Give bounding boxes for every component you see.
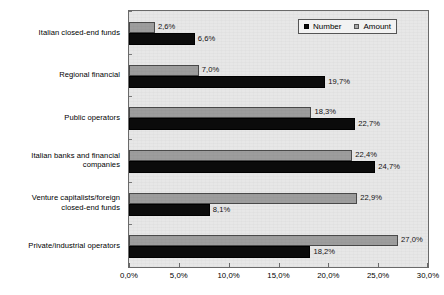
bar-amount-0 — [129, 22, 155, 33]
category-tick-2 — [129, 96, 132, 97]
category-label-line: companies — [0, 160, 120, 170]
category-tick-5 — [129, 224, 132, 225]
bar-value-amount-1: 7,0% — [202, 66, 220, 74]
value-tick-4 — [328, 263, 329, 267]
bar-number-1 — [129, 76, 325, 88]
bar-value-number-1: 19,7% — [328, 78, 350, 86]
category-label-3: Italian banks and financialcompanies — [0, 151, 120, 170]
bar-number-4 — [129, 204, 210, 216]
bar-number-3 — [129, 161, 375, 173]
category-tick-4 — [129, 182, 132, 183]
bar-amount-2 — [129, 107, 311, 118]
value-tick-1 — [179, 263, 180, 267]
category-label-0: Italian closed-end funds — [0, 28, 120, 38]
bar-value-amount-2: 18,3% — [314, 108, 336, 116]
value-tick-label-4: 20,0% — [317, 271, 339, 281]
category-label-1: Regional financial — [0, 70, 120, 80]
bar-value-number-2: 22,7% — [358, 120, 380, 128]
bar-value-number-0: 6,6% — [198, 35, 216, 43]
value-tick-label-3: 15,0% — [267, 271, 289, 281]
category-label-line: Regional financial — [0, 70, 120, 80]
value-tick-6 — [427, 263, 428, 267]
category-label-line: Public operators — [0, 113, 120, 123]
bar-amount-1 — [129, 65, 199, 76]
legend-entry-amount: Amount — [354, 22, 391, 31]
bar-value-number-3: 24,7% — [378, 163, 400, 171]
category-label-4: Venture capitalists/foreignclosed-end fu… — [0, 193, 120, 212]
category-label-line: Venture capitalists/foreign — [0, 193, 120, 203]
plot-inner: 2,6%6,6%7,0%19,7%18,3%22,7%22,4%24,7%22,… — [129, 11, 428, 267]
legend-label: Amount — [363, 22, 391, 31]
category-tick-1 — [129, 54, 132, 55]
category-axis-labels: Italian closed-end fundsRegional financi… — [0, 10, 124, 268]
bar-amount-3 — [129, 150, 352, 161]
value-tick-label-5: 25,0% — [367, 271, 389, 281]
bar-value-number-5: 18,2% — [313, 248, 335, 256]
value-tick-label-1: 5,0% — [170, 271, 188, 281]
value-tick-label-2: 10,0% — [217, 271, 239, 281]
category-label-line: closed-end funds — [0, 203, 120, 213]
legend-label: Number — [313, 22, 341, 31]
plot-area: 2,6%6,6%7,0%19,7%18,3%22,7%22,4%24,7%22,… — [128, 10, 429, 268]
value-tick-0 — [129, 263, 130, 267]
amount-swatch-icon — [354, 24, 359, 29]
bar-number-0 — [129, 33, 195, 45]
value-tick-label-6: 30,0% — [417, 271, 439, 281]
bar-amount-4 — [129, 193, 357, 204]
legend-entry-number: Number — [304, 22, 341, 31]
number-swatch-icon — [304, 24, 309, 29]
horizontal-bar-chart: Italian closed-end fundsRegional financi… — [0, 0, 444, 295]
chart-legend: NumberAmount — [298, 19, 397, 34]
bar-value-amount-0: 2,6% — [158, 23, 176, 31]
category-tick-3 — [129, 139, 132, 140]
category-label-line: Private/industrial operators — [0, 241, 120, 251]
bar-number-5 — [129, 246, 310, 258]
bar-amount-5 — [129, 235, 398, 246]
category-label-5: Private/industrial operators — [0, 241, 120, 251]
bar-value-amount-3: 22,4% — [355, 151, 377, 159]
category-label-line: Italian banks and financial — [0, 151, 120, 161]
value-tick-3 — [279, 263, 280, 267]
value-tick-label-0: 0,0% — [120, 271, 138, 281]
category-tick-0 — [129, 11, 132, 12]
value-tick-5 — [378, 263, 379, 267]
bar-value-amount-5: 27,0% — [401, 236, 423, 244]
value-axis-labels: 0,0%5,0%10,0%15,0%20,0%25,0%30,0% — [128, 271, 444, 285]
value-tick-2 — [229, 263, 230, 267]
category-label-2: Public operators — [0, 113, 120, 123]
bar-value-amount-4: 22,9% — [360, 194, 382, 202]
category-label-line: Italian closed-end funds — [0, 28, 120, 38]
bar-number-2 — [129, 118, 355, 130]
bar-value-number-4: 8,1% — [213, 206, 231, 214]
